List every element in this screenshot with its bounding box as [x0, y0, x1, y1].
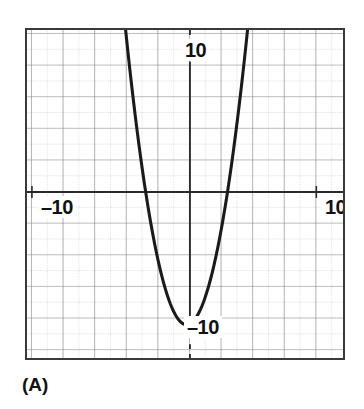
curve-layer: [27, 30, 343, 358]
figure-caption: (A): [22, 374, 48, 396]
plot-area: 10 –10 10 –10: [25, 28, 345, 360]
parabola-curve: [121, 30, 253, 325]
y-axis-top-label: 10: [182, 39, 209, 61]
y-axis-bottom-label: –10: [184, 316, 222, 338]
x-axis-left-label: –10: [38, 196, 76, 218]
x-axis-right-label: 10: [322, 196, 345, 218]
figure-root: 10 –10 10 –10 (A): [0, 0, 364, 409]
